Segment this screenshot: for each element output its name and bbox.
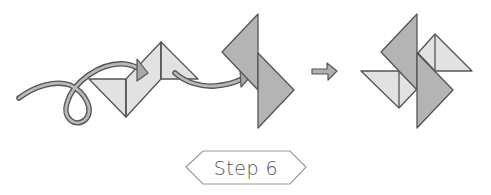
figure-completed-pinwheel bbox=[361, 14, 472, 128]
lower-dark-triangle bbox=[258, 53, 294, 128]
middle-light-parallelogram bbox=[126, 42, 161, 117]
left-light-triangle bbox=[89, 79, 126, 117]
result-arrow-icon bbox=[312, 63, 337, 80]
step-label: Step 6 bbox=[185, 150, 307, 185]
figure-dark-flaps bbox=[222, 14, 294, 128]
